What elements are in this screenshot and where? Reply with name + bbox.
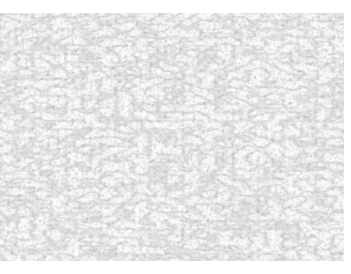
noise-texture-image: [0, 13, 344, 261]
texture-svg: [0, 13, 344, 261]
